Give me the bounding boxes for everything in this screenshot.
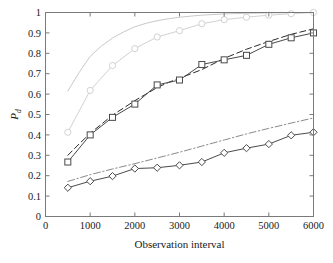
marker-point — [176, 28, 182, 34]
chart-figure: 010002000300040005000600000.10.20.30.40.… — [0, 0, 333, 263]
marker-point — [266, 41, 272, 47]
x-tick-label: 5000 — [258, 220, 279, 231]
x-tick-label: 4000 — [214, 220, 235, 231]
marker-point — [154, 34, 160, 40]
x-tick-label: 1000 — [80, 220, 101, 231]
y-tick-label: 0 — [36, 211, 41, 222]
marker-point — [177, 77, 183, 83]
marker-point — [87, 87, 93, 93]
marker-point — [65, 129, 71, 135]
y-tick-label: 1 — [36, 7, 41, 18]
marker-point — [87, 132, 93, 138]
line-chart-svg: 010002000300040005000600000.10.20.30.40.… — [0, 0, 333, 263]
y-tick-label: 0.1 — [28, 191, 41, 202]
marker-point — [244, 52, 250, 58]
y-tick-label: 0.5 — [28, 109, 41, 120]
marker-point — [288, 35, 294, 41]
marker-point — [221, 17, 227, 23]
marker-point — [132, 101, 138, 107]
marker-point — [288, 11, 294, 17]
marker-point — [65, 159, 71, 165]
x-axis-title: Observation interval — [134, 238, 224, 250]
marker-point — [154, 82, 160, 88]
marker-point — [221, 57, 227, 63]
x-tick-label: 6000 — [303, 220, 324, 231]
y-axis-title-subscript: d — [14, 109, 23, 113]
x-tick-label: 2000 — [124, 220, 145, 231]
marker-point — [243, 14, 249, 20]
marker-point — [110, 114, 116, 120]
y-tick-label: 0.3 — [28, 150, 41, 161]
y-tick-label: 0.6 — [28, 89, 41, 100]
marker-point — [132, 46, 138, 52]
x-tick-label: 3000 — [169, 220, 190, 231]
marker-point — [109, 62, 115, 68]
y-tick-label: 0.8 — [28, 48, 41, 59]
x-tick-label: 0 — [43, 220, 48, 231]
y-tick-label: 0.9 — [28, 28, 41, 39]
y-tick-label: 0.7 — [28, 68, 41, 79]
y-tick-label: 0.2 — [28, 170, 41, 181]
marker-point — [199, 21, 205, 27]
marker-point — [199, 62, 205, 68]
figure-background — [0, 0, 333, 263]
y-tick-label: 0.4 — [28, 130, 42, 141]
